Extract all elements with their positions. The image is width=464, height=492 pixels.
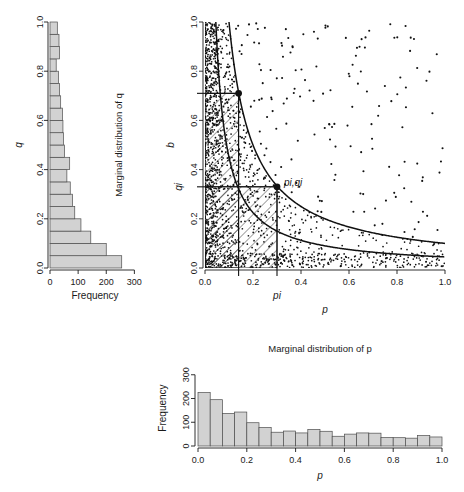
scatter-point (217, 169, 219, 171)
scatter-point (213, 145, 215, 147)
scatter-point (228, 204, 230, 206)
scatter-point (223, 33, 225, 35)
scatter-point (409, 264, 411, 266)
scatter-point (208, 50, 210, 52)
scatter-point (211, 112, 213, 114)
scatter-point (245, 211, 247, 213)
scatter-point (237, 171, 239, 173)
scatter-point (257, 179, 259, 181)
scatter-point (249, 188, 251, 190)
x-tick-label: 0.6 (338, 455, 351, 465)
scatter-point (294, 235, 296, 237)
scatter-point (213, 84, 215, 86)
scatter-point (231, 188, 233, 190)
scatter-point (220, 171, 222, 173)
scatter-point (370, 123, 372, 125)
scatter-point (438, 259, 440, 261)
scatter-point (290, 217, 292, 219)
scatter-point (279, 196, 281, 198)
scatter-point (204, 138, 206, 140)
scatter-point (214, 169, 216, 171)
scatter-point (207, 196, 209, 198)
scatter-point (245, 257, 247, 259)
scatter-point (250, 106, 252, 108)
scatter-point (263, 257, 265, 259)
scatter-point (253, 240, 255, 242)
scatter-point (341, 245, 343, 247)
scatter-point (432, 244, 434, 246)
histogram-bar (50, 170, 67, 182)
scatter-point (205, 265, 207, 267)
scatter-point (250, 222, 252, 224)
scatter-point (398, 174, 400, 176)
scatter-point (244, 220, 246, 222)
scatter-point (330, 261, 332, 263)
scatter-point (206, 121, 208, 123)
scatter-point (225, 73, 227, 75)
scatter-point (341, 257, 343, 259)
y-tick-label: 0.8 (35, 65, 45, 78)
scatter-point (217, 210, 219, 212)
scatter-point (310, 228, 312, 230)
scatter-point (258, 168, 260, 170)
x-tick-label: 0.8 (391, 277, 404, 287)
scatter-point (414, 266, 416, 268)
scatter-point (428, 71, 430, 73)
scatter-point (217, 150, 219, 152)
histogram-bar (210, 400, 222, 446)
scatter-point (264, 262, 266, 264)
scatter-point (436, 229, 438, 231)
scatter-point (334, 174, 336, 176)
scatter-point (212, 184, 214, 186)
scatter-point (213, 71, 215, 73)
scatter-point (211, 79, 213, 81)
scatter-point (211, 199, 213, 201)
scatter-point (242, 250, 244, 252)
scatter-point (436, 249, 438, 251)
scatter-point (205, 61, 207, 63)
scatter-point (205, 223, 207, 225)
scatter-point (213, 77, 215, 79)
scatter-point (264, 188, 266, 190)
scatter-point (242, 263, 244, 265)
scatter-point (206, 191, 208, 193)
scatter-point (236, 216, 238, 218)
scatter-point (205, 195, 207, 197)
scatter-point (308, 247, 310, 249)
scatter-point (360, 151, 362, 153)
scatter-point (437, 264, 439, 266)
scatter-point (215, 60, 217, 62)
scatter-point (216, 112, 218, 114)
scatter-point (215, 78, 217, 80)
scatter-point (363, 252, 365, 254)
scatter-point (204, 218, 206, 220)
scatter-point (235, 192, 237, 194)
scatter-point (217, 245, 219, 247)
histogram-bar (50, 157, 70, 169)
y-tick-label: 0.6 (189, 114, 199, 127)
histogram-bar (50, 207, 75, 219)
scatter-point (352, 211, 354, 213)
scatter-point (209, 178, 211, 180)
scatter-panel: pi,qi0.00.20.40.60.81.00.00.20.40.60.81.… (160, 0, 464, 336)
scatter-point (204, 48, 206, 50)
scatter-point (271, 231, 273, 233)
scatter-point (268, 259, 270, 261)
scatter-point (284, 260, 286, 262)
scatter-point (243, 129, 245, 131)
scatter-point (223, 237, 225, 239)
scatter-point (291, 262, 293, 264)
scatter-point (351, 106, 353, 108)
scatter-point (307, 214, 309, 216)
scatter-point (302, 260, 304, 262)
scatter-point (217, 114, 219, 116)
scatter-point (422, 176, 424, 178)
scatter-point (210, 95, 212, 97)
histogram-bar (247, 423, 259, 446)
scatter-point (258, 253, 260, 255)
scatter-point (208, 198, 210, 200)
scatter-point (204, 256, 206, 258)
scatter-point (219, 233, 221, 235)
scatter-point (317, 259, 319, 261)
scatter-point (259, 266, 261, 268)
